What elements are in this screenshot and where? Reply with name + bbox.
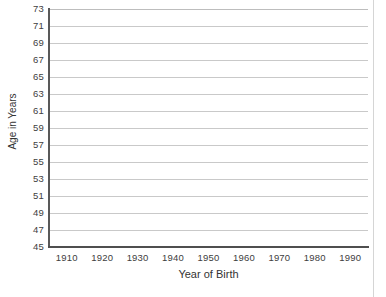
page-edge-line: [373, 0, 374, 297]
x-axis-tick-labels: 191019201930194019501960197019801990: [0, 0, 386, 297]
chart-container: 737169676563615957555351494745 191019201…: [0, 0, 386, 297]
x-axis-title: Year of Birth: [49, 268, 368, 280]
x-tick-label: 1990: [328, 252, 372, 263]
y-axis-title: Age in Years: [7, 72, 18, 172]
